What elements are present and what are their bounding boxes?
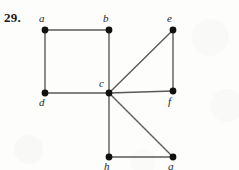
- vertex-label-h: h: [104, 161, 110, 170]
- graph-vertex: [170, 27, 177, 34]
- figure-canvas: 29. abcdefgh: [0, 0, 239, 170]
- vertex-label-f: f: [168, 96, 171, 107]
- vertex-label-e: e: [167, 13, 172, 24]
- graph-diagram: [0, 0, 239, 170]
- graph-vertex: [42, 27, 49, 34]
- graph-vertex: [170, 88, 177, 95]
- graph-edge: [109, 93, 173, 157]
- vertex-label-a: a: [39, 13, 45, 24]
- vertex-label-b: b: [103, 13, 109, 24]
- vertex-label-d: d: [39, 97, 45, 108]
- graph-vertex: [106, 27, 113, 34]
- vertex-label-c: c: [99, 78, 104, 89]
- graph-edge: [109, 30, 173, 93]
- graph-edge: [109, 91, 173, 93]
- vertex-label-g: g: [168, 161, 174, 170]
- graph-vertex: [106, 90, 113, 97]
